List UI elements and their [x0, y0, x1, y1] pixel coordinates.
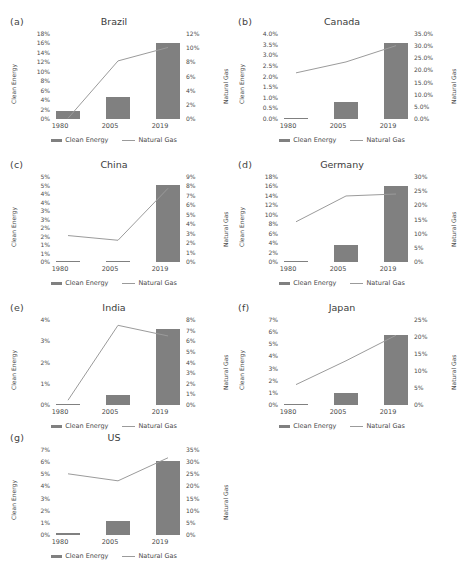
bar-swatch-icon: [279, 282, 290, 285]
legend-item-clean-energy: Clean Energy: [51, 136, 108, 144]
right-axis-tick: 10%: [414, 368, 427, 374]
left-axis-tick: 12%: [37, 59, 50, 65]
left-axis-tick: 4%: [40, 191, 50, 197]
bar-swatch-icon: [51, 282, 62, 285]
x-axis-tick: 2005: [90, 122, 130, 130]
x-axis: 198020052019: [280, 408, 412, 418]
left-axis-tick: 2%: [40, 234, 50, 240]
x-axis-tick: 2019: [368, 122, 408, 130]
right-axis-tick: 5%: [414, 385, 424, 391]
right-axis-tick: 8%: [186, 317, 196, 323]
line-series: [52, 34, 184, 119]
left-axis-tick: 12%: [265, 202, 278, 208]
x-axis-tick: 2019: [140, 408, 180, 416]
right-axis-tick: 0%: [186, 402, 196, 408]
right-axis-tick: 4%: [186, 360, 196, 366]
right-axis-tick: 25%: [186, 471, 199, 477]
right-axis-title: Natural Gas: [450, 69, 457, 105]
x-axis-tick: 1980: [268, 265, 308, 273]
legend-label-natural-gas: Natural Gas: [138, 136, 176, 144]
right-axis-tick: 0.0%: [414, 116, 429, 122]
right-axis-tick: 15%: [414, 217, 427, 223]
bar-swatch-icon: [51, 555, 62, 558]
right-axis-tick: 5%: [186, 212, 196, 218]
left-axis-tick: 6%: [40, 88, 50, 94]
panel-brazil: (a)Brazil0%2%4%6%8%10%12%14%16%18%0%2%4%…: [0, 14, 228, 157]
line-swatch-icon: [350, 426, 363, 427]
legend-item-clean-energy: Clean Energy: [51, 552, 108, 560]
legend: Clean EnergyNatural Gas: [0, 279, 228, 287]
left-axis-tick: 1%: [40, 520, 50, 526]
line-swatch-icon: [122, 283, 135, 284]
x-axis-tick: 1980: [40, 122, 80, 130]
line-swatch-icon: [122, 556, 135, 557]
bar-swatch-icon: [279, 425, 290, 428]
right-axis-tick: 10%: [186, 508, 199, 514]
right-axis: 0%1%2%3%4%5%6%7%8%9%: [186, 177, 224, 262]
panel-title: Japan: [228, 302, 456, 313]
right-axis-tick: 15.0%: [414, 80, 433, 86]
right-axis-tick: 12%: [186, 31, 199, 37]
x-axis-tick: 2005: [90, 408, 130, 416]
legend-label-clean-energy: Clean Energy: [293, 279, 336, 287]
plot-area: [52, 177, 184, 262]
left-axis-tick: 4%: [40, 483, 50, 489]
panel-title: China: [0, 159, 228, 170]
line-series: [52, 320, 184, 405]
right-axis-tick: 10%: [414, 231, 427, 237]
line-series: [280, 34, 412, 119]
left-axis-tick: 4%: [40, 200, 50, 206]
right-axis-tick: 5%: [186, 520, 196, 526]
legend-label-clean-energy: Clean Energy: [293, 422, 336, 430]
right-axis-tick: 5%: [186, 349, 196, 355]
right-axis-tick: 20%: [414, 202, 427, 208]
left-axis-tick: 2%: [40, 360, 50, 366]
legend: Clean EnergyNatural Gas: [228, 279, 456, 287]
right-axis-tick: 4%: [186, 88, 196, 94]
line-swatch-icon: [350, 140, 363, 141]
right-axis-tick: 2%: [186, 102, 196, 108]
right-axis-tick: 30.0%: [414, 43, 433, 49]
legend-label-clean-energy: Clean Energy: [65, 422, 108, 430]
right-axis-tick: 25.0%: [414, 55, 433, 61]
right-axis-tick: 20%: [414, 334, 427, 340]
legend-item-natural-gas: Natural Gas: [122, 422, 176, 430]
left-axis-title: Clean Energy: [238, 64, 245, 104]
left-axis: 0%1%1%2%2%3%3%4%4%5%5%: [14, 177, 50, 262]
right-axis-tick: 20.0%: [414, 67, 433, 73]
x-axis: 198020052019: [52, 265, 184, 275]
panel-title: Brazil: [0, 16, 228, 27]
legend-label-natural-gas: Natural Gas: [138, 552, 176, 560]
left-axis-tick: 6%: [268, 231, 278, 237]
left-axis-tick: 2%: [268, 378, 278, 384]
left-axis: 0%1%2%3%4%5%6%7%: [14, 450, 50, 535]
left-axis-tick: 4%: [268, 353, 278, 359]
panel-japan: (f)Japan0%1%2%3%4%5%6%7%0%5%10%15%20%25%…: [228, 300, 456, 443]
legend-item-clean-energy: Clean Energy: [51, 279, 108, 287]
right-axis-tick: 30%: [186, 459, 199, 465]
right-axis-tick: 1%: [186, 391, 196, 397]
legend-label-clean-energy: Clean Energy: [65, 279, 108, 287]
right-axis-tick: 35.0%: [414, 31, 433, 37]
x-axis-tick: 2019: [140, 538, 180, 546]
right-axis-tick: 6%: [186, 74, 196, 80]
left-axis-tick: 2.5%: [263, 63, 278, 69]
left-axis-tick: 5%: [40, 471, 50, 477]
legend-label-clean-energy: Clean Energy: [65, 136, 108, 144]
legend: Clean EnergyNatural Gas: [0, 136, 228, 144]
legend-label-natural-gas: Natural Gas: [366, 279, 404, 287]
right-axis: 0%2%4%6%8%10%12%: [186, 34, 224, 119]
panel-germany: (d)Germany0%2%4%6%8%10%12%14%16%18%0%5%1…: [228, 157, 456, 300]
legend-item-natural-gas: Natural Gas: [122, 279, 176, 287]
line-swatch-icon: [122, 140, 135, 141]
line-series: [280, 177, 412, 262]
x-axis: 198020052019: [280, 122, 412, 132]
left-axis-tick: 0.5%: [263, 105, 278, 111]
left-axis: 0%1%2%3%4%5%6%7%: [242, 320, 278, 405]
left-axis-title: Clean Energy: [10, 480, 17, 520]
right-axis: 0%5%10%15%20%25%30%: [414, 177, 452, 262]
x-axis: 198020052019: [280, 265, 412, 275]
x-axis-tick: 2005: [90, 538, 130, 546]
x-axis-tick: 2019: [368, 265, 408, 273]
right-axis-tick: 8%: [186, 59, 196, 65]
